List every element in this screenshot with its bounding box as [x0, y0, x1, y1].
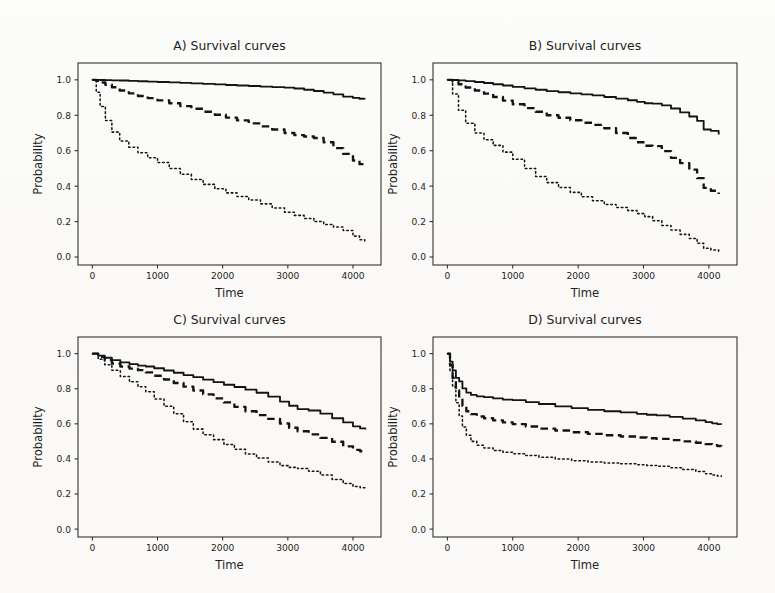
- survival-curve-solid: [447, 80, 718, 135]
- x-tick-label: 3000: [632, 271, 655, 281]
- y-tick-label: 0.8: [412, 384, 427, 394]
- survival-curve-dashed: [447, 354, 721, 447]
- y-axis-label: Probability: [386, 133, 400, 194]
- survival-curve-dotted: [447, 354, 721, 477]
- x-tick-label: 2000: [567, 543, 590, 553]
- survival-curves-figure: A) Survival curves010002000300040000.00.…: [0, 0, 775, 593]
- y-tick-label: 0.6: [57, 419, 72, 429]
- survival-curve-dashed: [447, 80, 718, 194]
- y-tick-label: 0.8: [412, 111, 427, 121]
- x-tick-label: 0: [444, 271, 450, 281]
- x-axis-label: Time: [570, 558, 599, 572]
- survival-curve-solid: [92, 80, 364, 99]
- y-tick-label: 0.8: [57, 384, 72, 394]
- x-axis-label: Time: [214, 558, 243, 572]
- y-tick-label: 0.4: [412, 454, 427, 464]
- panel-a: A) Survival curves010002000300040000.00.…: [0, 24, 390, 296]
- plot-frame: [433, 337, 737, 537]
- y-tick-label: 1.0: [412, 349, 427, 359]
- y-tick-label: 0.6: [57, 146, 72, 156]
- y-tick-label: 0.6: [412, 419, 427, 429]
- x-tick-label: 3000: [632, 543, 655, 553]
- y-axis-label: Probability: [386, 406, 400, 467]
- x-tick-label: 3000: [276, 543, 299, 553]
- panel-d: D) Survival curves010002000300040000.00.…: [345, 298, 775, 570]
- x-tick-label: 4000: [697, 543, 720, 553]
- panel-title: D) Survival curves: [528, 312, 641, 327]
- y-tick-label: 0.4: [57, 454, 72, 464]
- x-tick-label: 2000: [211, 543, 234, 553]
- panel-title: A) Survival curves: [173, 38, 285, 53]
- y-tick-label: 0.4: [412, 182, 427, 192]
- y-tick-label: 1.0: [57, 75, 72, 85]
- x-tick-label: 3000: [276, 271, 299, 281]
- y-tick-label: 0.8: [57, 111, 72, 121]
- y-tick-label: 0.2: [57, 489, 71, 499]
- x-tick-label: 0: [89, 271, 95, 281]
- survival-curve-dotted: [447, 80, 718, 252]
- y-axis-label: Probability: [31, 406, 45, 467]
- x-tick-label: 0: [444, 543, 450, 553]
- y-tick-label: 0.0: [412, 252, 427, 262]
- panel-title: C) Survival curves: [173, 312, 286, 327]
- y-tick-label: 0.2: [412, 217, 426, 227]
- x-tick-label: 1000: [501, 543, 524, 553]
- y-tick-label: 0.4: [57, 182, 72, 192]
- plot-frame: [433, 63, 737, 265]
- panel-title: B) Survival curves: [529, 38, 641, 53]
- y-tick-label: 0.0: [412, 525, 427, 535]
- y-tick-label: 0.2: [412, 489, 426, 499]
- y-tick-label: 1.0: [412, 75, 427, 85]
- panel-b: B) Survival curves010002000300040000.00.…: [345, 24, 775, 296]
- survival-curve-dotted: [92, 80, 364, 242]
- x-tick-label: 1000: [146, 271, 169, 281]
- x-tick-label: 2000: [567, 271, 590, 281]
- survival-curve-solid: [447, 354, 721, 425]
- y-tick-label: 0.6: [412, 146, 427, 156]
- survival-curve-dashed: [92, 354, 365, 452]
- survival-curve-dotted: [92, 354, 365, 489]
- y-tick-label: 0.2: [57, 217, 71, 227]
- x-tick-label: 1000: [501, 271, 524, 281]
- panel-c: C) Survival curves010002000300040000.00.…: [0, 298, 390, 570]
- plot-frame: [78, 337, 381, 537]
- x-tick-label: 2000: [211, 271, 234, 281]
- x-tick-label: 0: [89, 543, 95, 553]
- plot-frame: [78, 63, 381, 265]
- x-tick-label: 4000: [697, 271, 720, 281]
- y-tick-label: 0.0: [57, 252, 72, 262]
- y-axis-label: Probability: [31, 133, 45, 194]
- y-tick-label: 0.0: [57, 525, 72, 535]
- x-tick-label: 1000: [146, 543, 169, 553]
- y-tick-label: 1.0: [57, 349, 72, 359]
- survival-curve-solid: [92, 354, 365, 430]
